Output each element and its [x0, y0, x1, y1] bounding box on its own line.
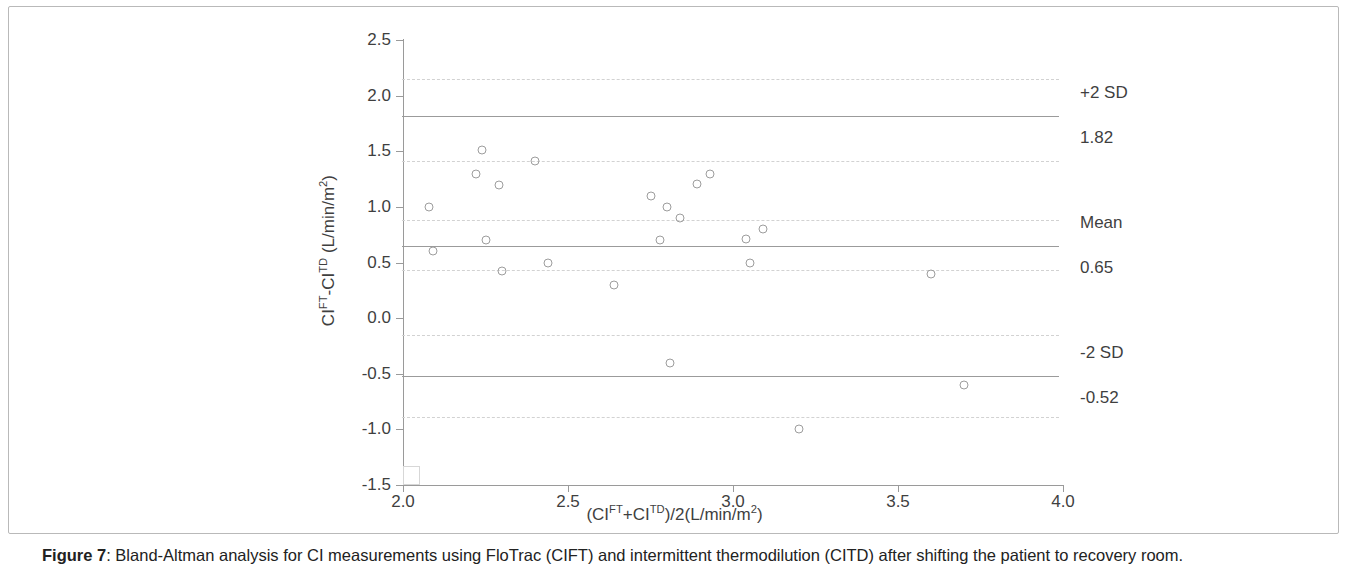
data-point: [705, 169, 714, 178]
y-axis-tick: [396, 207, 403, 208]
y-axis-tick: [396, 374, 403, 375]
figure-caption-separator: :: [106, 546, 115, 564]
confidence-interval-line: [402, 161, 1059, 162]
data-point: [481, 236, 490, 245]
reference-line-label: Mean: [1080, 213, 1123, 233]
x-axis-tick: [898, 485, 899, 492]
x-axis-title-end: ): [757, 505, 763, 524]
x-axis-tick: [403, 485, 404, 492]
y-axis-tick-label: 0.0: [337, 308, 391, 328]
data-point: [498, 267, 507, 276]
y-axis-title-post: (L/min/m: [319, 187, 338, 258]
y-axis-tick-label: 1.5: [337, 141, 391, 161]
confidence-interval-line: [402, 79, 1059, 80]
x-axis-title-mid: +CI: [623, 505, 650, 524]
figure-caption-label: Figure 7: [42, 546, 106, 564]
data-point: [471, 169, 480, 178]
figure-caption: Figure 7: Bland-Altman analysis for CI m…: [42, 545, 1332, 566]
y-axis-tick-label: -1.5: [337, 475, 391, 495]
data-point: [544, 258, 553, 267]
y-axis-tick-label: -1.0: [337, 419, 391, 439]
x-axis-title-sup-td: TD: [650, 503, 665, 515]
y-axis-tick-label: 1.0: [337, 197, 391, 217]
data-point: [531, 157, 540, 166]
data-point: [795, 425, 804, 434]
data-point: [428, 247, 437, 256]
reference-line: [402, 376, 1059, 377]
y-axis-tick-label: 0.5: [337, 253, 391, 273]
y-axis-tick: [396, 151, 403, 152]
scatter-plot-area: -1.5-1.0-0.50.00.51.01.52.02.5 2.02.53.0…: [403, 40, 1063, 485]
reference-line-value: 0.65: [1080, 258, 1113, 278]
x-axis-title: (CIFT+CITD)/2(L/min/m2): [0, 505, 1349, 525]
y-axis-tick-label: -0.5: [337, 364, 391, 384]
data-point: [676, 214, 685, 223]
y-axis-tick: [396, 429, 403, 430]
reference-line: [402, 116, 1059, 117]
y-axis-tick-label: 2.5: [337, 30, 391, 50]
data-point: [666, 358, 675, 367]
y-axis-tick: [396, 96, 403, 97]
confidence-interval-line: [402, 417, 1059, 418]
data-point: [610, 280, 619, 289]
y-axis-tick: [396, 318, 403, 319]
reference-line-value: 1.82: [1080, 128, 1113, 148]
data-point: [960, 380, 969, 389]
x-axis-title-sup-ft: FT: [609, 503, 623, 515]
y-axis-title-sup-ft: FT: [317, 295, 329, 309]
confidence-interval-line: [402, 220, 1059, 221]
y-axis-title: CIFT-CITD (L/min/m2): [319, 175, 339, 326]
x-axis-tick: [1063, 485, 1064, 492]
data-point: [758, 225, 767, 234]
data-point: [692, 179, 701, 188]
data-point: [745, 258, 754, 267]
reference-line-label: +2 SD: [1080, 83, 1128, 103]
figure-caption-text: Bland-Altman analysis for CI measurement…: [115, 546, 1183, 564]
confidence-interval-line: [402, 335, 1059, 336]
bland-altman-figure: -1.5-1.0-0.50.00.51.01.52.02.5 2.02.53.0…: [0, 0, 1349, 582]
x-axis-title-post: )/2(L/min/m: [665, 505, 751, 524]
data-point: [742, 235, 751, 244]
data-point: [927, 269, 936, 278]
y-axis-title-pre: CI: [319, 309, 338, 326]
y-axis-title-sup-sq: 2: [317, 181, 329, 187]
y-axis-tick: [396, 263, 403, 264]
reference-line-label: -2 SD: [1080, 343, 1123, 363]
data-point: [494, 180, 503, 189]
data-point: [478, 146, 487, 155]
y-axis-line: [403, 39, 404, 486]
data-point: [656, 236, 665, 245]
y-axis-tick: [396, 40, 403, 41]
y-axis-title-end: ): [319, 175, 338, 181]
x-axis-title-pre: (CI: [586, 505, 609, 524]
plot-origin-marker: [403, 466, 420, 485]
y-axis-tick-label: 2.0: [337, 86, 391, 106]
y-axis-tick: [396, 485, 403, 486]
data-point: [663, 202, 672, 211]
y-axis-title-sup-td: TD: [317, 258, 329, 273]
x-axis-tick: [733, 485, 734, 492]
data-point: [646, 191, 655, 200]
x-axis-tick: [568, 485, 569, 492]
data-point: [425, 202, 434, 211]
reference-line: [402, 246, 1059, 247]
y-axis-title-mid: -CI: [319, 273, 338, 296]
reference-line-value: -0.52: [1080, 388, 1119, 408]
